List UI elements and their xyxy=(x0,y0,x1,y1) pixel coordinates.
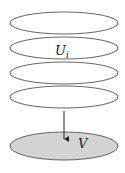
label-u-i: Ui xyxy=(55,43,69,60)
set-u-4 xyxy=(10,86,118,108)
stack-of-sets-u xyxy=(10,12,118,108)
set-u-3 xyxy=(10,62,118,84)
diagram-canvas: Ui V xyxy=(0,0,125,173)
set-u-1 xyxy=(10,12,118,34)
label-v: V xyxy=(78,136,89,151)
